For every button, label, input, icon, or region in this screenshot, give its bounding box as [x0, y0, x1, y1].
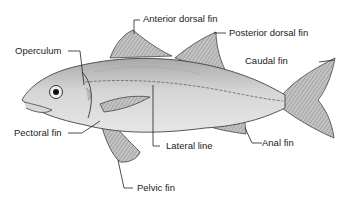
- label-pectoral-fin: Pectoral fin: [14, 128, 62, 138]
- anterior-dorsal-fin-shape: [110, 30, 172, 58]
- label-lateral-line: Lateral line: [166, 141, 212, 151]
- label-posterior-dorsal-fin: Posterior dorsal fin: [229, 28, 308, 38]
- label-caudal-fin: Caudal fin: [245, 56, 288, 66]
- label-pelvic-fin: Pelvic fin: [137, 183, 175, 193]
- caudal-fin-shape: [282, 58, 335, 138]
- label-anterior-dorsal-fin: Anterior dorsal fin: [143, 14, 217, 24]
- label-operculum: Operculum: [15, 46, 61, 56]
- label-anal-fin: Anal fin: [262, 138, 294, 148]
